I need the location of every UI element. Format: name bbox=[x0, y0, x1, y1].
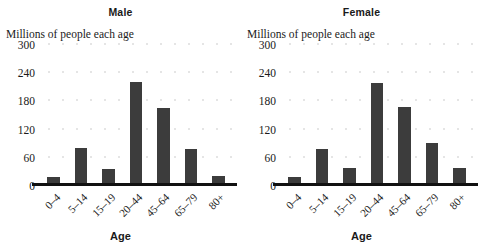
y-tick-label: 60 bbox=[24, 152, 36, 164]
y-tick-label: 120 bbox=[259, 124, 276, 136]
bar bbox=[398, 107, 411, 186]
bar bbox=[185, 149, 198, 186]
chart-panel-male: Male Millions of people each age 0601201… bbox=[0, 0, 241, 250]
y-tick-label: 300 bbox=[18, 39, 35, 51]
bar bbox=[157, 108, 170, 186]
y-tick-label: 180 bbox=[18, 95, 35, 107]
plot-area-female: 060120180240300 bbox=[281, 45, 473, 186]
x-tick-labels-male: 0–45–1415–1920–4445–6465–7980+ bbox=[40, 189, 232, 229]
x-axis-title-female: Age bbox=[241, 230, 482, 242]
x-axis-line-male bbox=[32, 183, 237, 186]
x-axis-line-female bbox=[273, 183, 478, 186]
x-tick-labels-female: 0–45–1415–1920–4445–6465–7980+ bbox=[281, 189, 473, 229]
bar bbox=[371, 83, 384, 186]
x-axis-title-male: Age bbox=[0, 230, 241, 242]
bar bbox=[316, 149, 329, 186]
bar bbox=[426, 143, 439, 186]
bars-male bbox=[40, 45, 232, 186]
y-tick-label: 240 bbox=[18, 67, 35, 79]
panel-title-female: Female bbox=[241, 6, 482, 18]
bar bbox=[75, 148, 88, 186]
plot-area-male: 060120180240300 bbox=[40, 45, 232, 186]
y-tick-label: 0 bbox=[270, 180, 276, 192]
y-tick-label: 60 bbox=[265, 152, 277, 164]
bar bbox=[130, 82, 143, 186]
population-pyramid-figure: Male Millions of people each age 0601201… bbox=[0, 0, 483, 250]
y-tick-label: 0 bbox=[29, 180, 35, 192]
y-tick-label: 120 bbox=[18, 124, 35, 136]
chart-panel-female: Female Millions of people each age 06012… bbox=[241, 0, 482, 250]
panel-title-male: Male bbox=[0, 6, 241, 18]
y-tick-label: 240 bbox=[259, 67, 276, 79]
y-tick-label: 300 bbox=[259, 39, 276, 51]
bars-female bbox=[281, 45, 473, 186]
y-tick-label: 180 bbox=[259, 95, 276, 107]
